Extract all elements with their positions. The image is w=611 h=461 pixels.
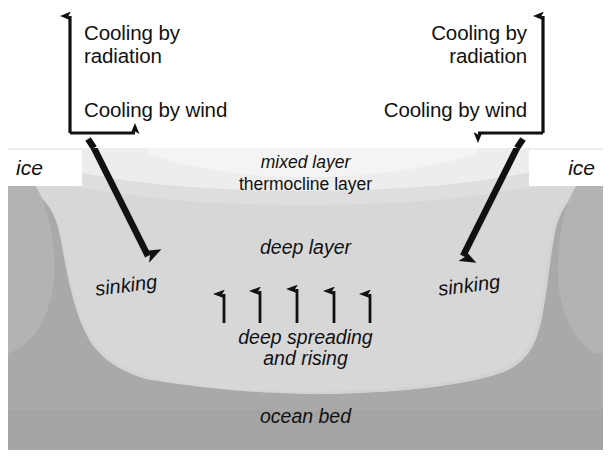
cooling-by-radiation-label-left: Cooling by radiation xyxy=(84,22,180,68)
deep-spreading-and-rising-label: deep spreading and rising xyxy=(0,327,611,370)
cooling-by-wind-label-left: Cooling by wind xyxy=(84,99,227,122)
mixed-layer-label: mixed layer xyxy=(0,152,611,173)
ocean-bed-label: ocean bed xyxy=(0,405,611,428)
deep-layer-label: deep layer xyxy=(0,236,611,259)
thermocline-layer-label: thermocline layer xyxy=(0,174,611,195)
cooling-by-wind-label-right: Cooling by wind xyxy=(384,99,527,122)
sinking-stub-left xyxy=(88,139,94,148)
cooling-by-radiation-label-right: Cooling by radiation xyxy=(431,22,527,68)
sinking-stub-right xyxy=(517,139,523,148)
diagram-canvas: Cooling by radiation Cooling by wind Coo… xyxy=(0,0,611,461)
